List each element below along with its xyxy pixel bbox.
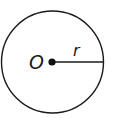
circle-diagram: O r [0,0,117,118]
radius-label-r: r [73,41,81,60]
center-point [48,58,55,65]
center-label-o: O [29,51,44,73]
